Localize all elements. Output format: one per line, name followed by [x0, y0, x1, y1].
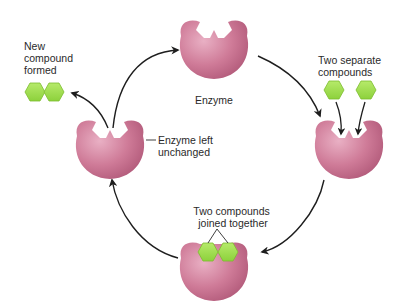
separate-compound-a — [324, 81, 344, 99]
enzyme-label: Enzyme — [195, 94, 233, 106]
new-compound-formed-label: New compound formed — [24, 40, 76, 76]
enzyme-top — [180, 21, 248, 79]
product-compound-b — [44, 83, 64, 101]
enzyme-cycle-diagram: Enzyme Two separate compounds Two compou… — [0, 0, 406, 308]
two-compounds-joined-label: Two compounds joined together — [193, 205, 272, 229]
enzyme-left — [76, 121, 144, 179]
enzyme-left-unchanged-label: Enzyme left unchanged — [158, 134, 216, 158]
arrow-substrate-a — [336, 102, 341, 134]
joined-pointer-lines — [208, 229, 228, 243]
arrow-substrate-b — [358, 102, 365, 134]
separate-compound-b — [356, 81, 376, 99]
arrow-left-to-top — [113, 50, 178, 128]
two-separate-compounds-label: Two separate compounds — [318, 54, 384, 78]
arrow-bottom-to-left — [112, 180, 178, 258]
enzyme-right — [315, 121, 383, 179]
arrow-top-to-right — [258, 56, 320, 116]
product-compound-a — [25, 83, 45, 101]
